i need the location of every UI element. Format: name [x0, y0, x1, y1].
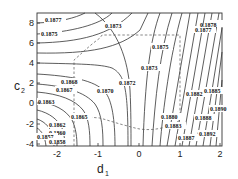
svg-text:0.1868: 0.1868 [61, 79, 78, 85]
x-axis-label: d 1 [97, 162, 109, 177]
svg-text:0.1882: 0.1882 [186, 91, 203, 97]
y-axis-label: c 2 [14, 79, 25, 94]
svg-text:0.1885: 0.1885 [204, 88, 221, 94]
svg-text:0.1875: 0.1875 [152, 44, 169, 50]
y-tick-label: 8 [29, 18, 34, 28]
svg-text:0.1888: 0.1888 [195, 115, 212, 121]
svg-text:0.1890: 0.1890 [210, 106, 227, 112]
svg-text:0.1872: 0.1872 [119, 80, 136, 86]
svg-text:0.1878: 0.1878 [200, 22, 217, 28]
svg-text:0.1873: 0.1873 [105, 23, 122, 29]
svg-text:0.1880: 0.1880 [161, 114, 178, 120]
svg-text:0.1865: 0.1865 [71, 114, 88, 120]
svg-text:d: d [97, 162, 104, 176]
svg-text:0.1883: 0.1883 [165, 123, 182, 129]
x-tick-label: -2 [53, 149, 61, 159]
svg-text:0.1887: 0.1887 [178, 135, 195, 141]
y-tick-label: 6 [29, 38, 34, 48]
svg-text:0.1875: 0.1875 [41, 31, 58, 37]
y-tick-label: -4 [26, 139, 34, 149]
y-tick-label: -2 [26, 119, 34, 129]
y-tick-label: 4 [29, 58, 34, 68]
x-tick-label: 2 [217, 149, 222, 159]
svg-text:2: 2 [21, 87, 25, 94]
svg-text:0.1863: 0.1863 [38, 99, 55, 105]
x-tick-label: 1 [177, 149, 182, 159]
x-tick-label: -1 [94, 149, 102, 159]
svg-text:0.1873: 0.1873 [141, 65, 158, 71]
svg-text:0.1870: 0.1870 [97, 88, 114, 94]
contour-chart: 0.1877 0.1875 0.1873 0.1875 0.1877 0.187… [0, 0, 238, 179]
x-axis: -2 -1 0 1 2 [53, 143, 223, 159]
svg-text:1: 1 [105, 170, 109, 177]
svg-text:0.1877: 0.1877 [45, 17, 62, 23]
y-tick-label: 0 [29, 98, 34, 108]
svg-text:0.1862: 0.1862 [49, 122, 66, 128]
svg-text:0.1867: 0.1867 [56, 87, 73, 93]
y-tick-label: 2 [29, 78, 34, 88]
feasible-region-boundary [74, 35, 180, 146]
y-axis: 8 6 4 2 0 -2 -4 [26, 18, 40, 149]
svg-text:c: c [14, 79, 20, 93]
svg-text:0.1892: 0.1892 [199, 131, 216, 137]
x-tick-label: 0 [136, 149, 141, 159]
